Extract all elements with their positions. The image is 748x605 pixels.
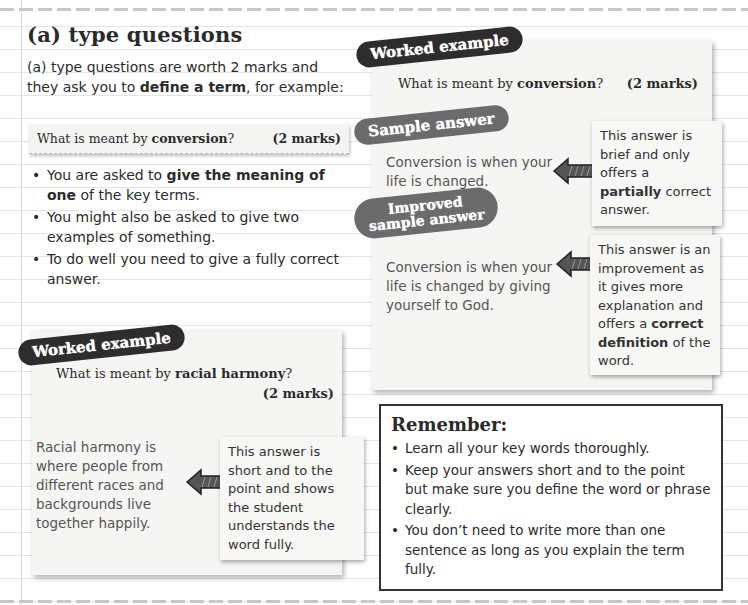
margin-line xyxy=(21,0,22,605)
note-prefix: This answer is brief and only offers a xyxy=(600,128,692,180)
bullet-suffix: of the key terms. xyxy=(76,187,200,203)
question-term: conversion xyxy=(152,131,228,146)
worked-question-text: What is meant by conversion? xyxy=(398,76,603,91)
guidance-bullets: You are asked to give the meaning of one… xyxy=(32,166,342,292)
q-prefix: What is meant by xyxy=(398,76,517,91)
intro-text: (a) type questions are worth 2 marks and… xyxy=(27,57,347,97)
q-term: conversion xyxy=(517,76,596,91)
intro-bold: define a term xyxy=(140,79,246,95)
worked-marks: (2 marks) xyxy=(263,386,334,401)
worked-question: What is meant by racial harmony? xyxy=(56,366,336,381)
bottom-dashed-divider xyxy=(0,600,748,603)
question-marks: (2 marks) xyxy=(273,131,342,146)
sample-answer-text: Conversion is when your life is changed. xyxy=(386,153,556,191)
racial-harmony-note: This answer is short and to the point an… xyxy=(220,437,364,560)
remember-item: Learn all your key words thoroughly. xyxy=(391,439,711,459)
worked-question: What is meant by conversion? (2 marks) xyxy=(398,76,698,91)
remember-list: Learn all your key words thoroughly. Kee… xyxy=(391,439,711,580)
q-prefix: What is meant by xyxy=(56,366,175,381)
q-term: racial harmony xyxy=(175,366,285,381)
bullet-item: To do well you need to give a fully corr… xyxy=(32,250,342,289)
remember-box: Remember: Learn all your key words thoro… xyxy=(379,404,723,591)
q-suffix: ? xyxy=(596,76,603,91)
improved-answer-text: Conversion is when your life is changed … xyxy=(386,258,556,315)
bullet-item: You are asked to give the meaning of one… xyxy=(32,166,342,205)
section-title: (a) type questions xyxy=(27,22,243,47)
q-suffix: ? xyxy=(285,366,292,381)
racial-harmony-answer-text: Racial harmony is where people from diff… xyxy=(36,438,176,533)
arrow-left-icon xyxy=(552,157,596,185)
remember-title: Remember: xyxy=(391,414,711,435)
bullet-prefix: You are asked to xyxy=(47,167,167,183)
worked-marks: (2 marks) xyxy=(627,76,698,91)
remember-item: Keep your answers short and to the point… xyxy=(391,461,711,520)
sample-answer-note: This answer is brief and only offers a p… xyxy=(592,121,722,226)
remember-item: You don’t need to write more than one se… xyxy=(391,521,711,580)
top-dashed-divider xyxy=(0,8,748,11)
improved-answer-note: This answer is an improvement as it give… xyxy=(590,235,720,375)
example-question: What is meant by conversion? xyxy=(37,131,234,146)
question-suffix: ? xyxy=(228,131,235,146)
question-prefix: What is meant by xyxy=(37,131,152,146)
intro-suffix: , for example: xyxy=(246,79,344,95)
example-question-strip: What is meant by conversion? (2 marks) xyxy=(29,124,349,154)
bullet-item: You might also be asked to give two exam… xyxy=(32,208,342,247)
note-bold: partially xyxy=(600,184,661,199)
